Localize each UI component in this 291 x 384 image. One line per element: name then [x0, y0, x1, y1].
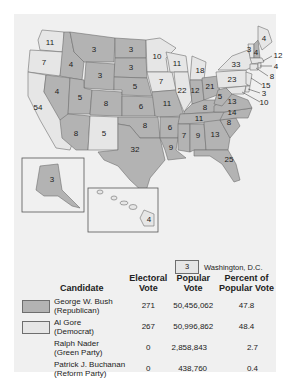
svg-text:8: 8 [203, 103, 208, 112]
svg-text:9: 9 [196, 131, 201, 140]
svg-text:8: 8 [227, 118, 232, 127]
svg-text:22: 22 [178, 86, 187, 95]
svg-text:5: 5 [78, 93, 83, 102]
svg-text:32: 32 [131, 145, 140, 154]
svg-text:11: 11 [46, 38, 55, 47]
svg-text:7: 7 [42, 58, 47, 67]
democrat-swatch [22, 321, 50, 334]
svg-text:25: 25 [225, 155, 234, 164]
us-electoral-map: 11 7 54 4 4 3 3 5 8 8 5 3 3 5 6 8 32 10 … [0, 0, 291, 274]
state-de [245, 86, 250, 92]
candidate-cell: Patrick J. Buchanan(Reform Party) [52, 359, 127, 380]
svg-text:5: 5 [102, 129, 107, 138]
candidate-cell: Al Gore(Democrat) [52, 317, 127, 338]
svg-text:9: 9 [169, 143, 174, 152]
svg-text:7: 7 [182, 131, 187, 140]
header-candidate: Candidate [52, 274, 127, 296]
svg-text:6: 6 [139, 102, 144, 111]
svg-text:23: 23 [228, 75, 237, 84]
svg-text:10: 10 [260, 98, 269, 107]
svg-text:4: 4 [274, 62, 279, 71]
svg-text:6: 6 [168, 123, 173, 132]
svg-text:4: 4 [147, 215, 152, 224]
svg-text:33: 33 [232, 60, 241, 69]
svg-text:14: 14 [228, 108, 237, 117]
svg-text:7: 7 [159, 77, 164, 86]
svg-text:8: 8 [104, 99, 109, 108]
svg-text:8: 8 [143, 121, 148, 130]
state-ct [250, 64, 258, 70]
dc-label: Washington, D.C. [204, 263, 263, 272]
table-header-row: Candidate ElectoralVote PopularVote Perc… [14, 274, 276, 296]
svg-text:3: 3 [92, 45, 97, 54]
svg-text:12: 12 [274, 51, 283, 60]
svg-text:10: 10 [153, 52, 162, 61]
svg-text:4: 4 [262, 34, 267, 43]
svg-text:11: 11 [195, 114, 204, 123]
svg-text:12: 12 [191, 86, 200, 95]
svg-text:5: 5 [133, 82, 138, 91]
header-percent: Percent ofPopular Vote [217, 274, 276, 296]
results-table: Candidate ElectoralVote PopularVote Perc… [14, 274, 276, 380]
svg-text:3: 3 [98, 71, 103, 80]
svg-text:11: 11 [163, 99, 172, 108]
header-popular: PopularVote [169, 274, 217, 296]
svg-text:13: 13 [228, 97, 237, 106]
svg-text:8: 8 [270, 72, 275, 81]
table-row: George W. Bush(Republican) 271 50,456,06… [14, 296, 276, 317]
svg-text:4: 4 [69, 60, 74, 69]
svg-text:3: 3 [129, 45, 134, 54]
republican-swatch [22, 300, 50, 313]
table-row: Patrick J. Buchanan(Reform Party) 0 438,… [14, 359, 276, 380]
svg-text:3: 3 [262, 89, 267, 98]
table-row: Al Gore(Democrat) 267 50,996,862 48.4 [14, 317, 276, 338]
svg-text:18: 18 [196, 66, 205, 75]
dc-electoral-box: 3 [175, 260, 199, 274]
state-ri [258, 63, 261, 68]
svg-text:8: 8 [74, 129, 79, 138]
svg-text:3: 3 [129, 63, 134, 72]
svg-text:54: 54 [34, 103, 43, 112]
svg-text:3: 3 [247, 45, 252, 54]
state-nj [246, 72, 252, 86]
svg-text:3: 3 [50, 175, 55, 184]
table-row: Ralph Nader(Green Party) 0 2,858,843 2.7 [14, 338, 276, 359]
svg-text:21: 21 [206, 82, 215, 91]
dc-legend: 3 Washington, D.C. [175, 260, 263, 274]
svg-text:4: 4 [254, 48, 259, 57]
svg-text:13: 13 [211, 130, 220, 139]
state-ma [250, 58, 264, 64]
svg-text:5: 5 [218, 92, 223, 101]
candidate-cell: Ralph Nader(Green Party) [52, 338, 127, 359]
candidate-cell: George W. Bush(Republican) [52, 296, 127, 317]
header-electoral: ElectoralVote [127, 274, 169, 296]
svg-text:11: 11 [173, 59, 182, 68]
svg-text:4: 4 [55, 87, 60, 96]
